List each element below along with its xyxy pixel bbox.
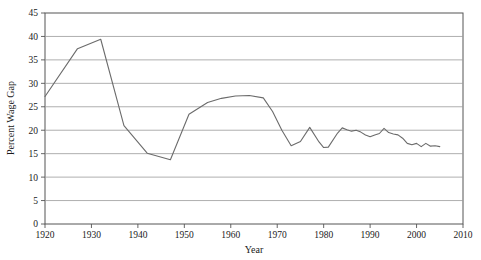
- x-axis-ticks: [45, 224, 463, 228]
- y-tick-label: 20: [29, 126, 39, 136]
- plot-background: [45, 13, 463, 224]
- y-tick-label: 25: [29, 102, 39, 112]
- y-axis-tick-labels: 051015202530354045: [29, 8, 39, 229]
- y-tick-label: 0: [33, 219, 38, 229]
- x-tick-label: 1940: [128, 230, 147, 240]
- x-tick-label: 1950: [175, 230, 194, 240]
- y-tick-label: 5: [33, 196, 38, 206]
- y-axis-ticks: [41, 13, 45, 224]
- y-tick-label: 40: [29, 32, 39, 42]
- x-tick-label: 2000: [407, 230, 426, 240]
- y-axis-title: Percent Wage Gap: [5, 81, 16, 155]
- y-tick-label: 15: [29, 149, 39, 159]
- x-tick-label: 2010: [454, 230, 473, 240]
- y-tick-label: 10: [29, 173, 39, 183]
- y-tick-label: 30: [29, 79, 39, 89]
- x-tick-label: 1920: [36, 230, 55, 240]
- x-axis-title: Year: [245, 244, 264, 255]
- plot-frame: [45, 13, 463, 224]
- x-axis-tick-labels: 1920193019401950196019701980199020002010: [36, 230, 473, 240]
- chart-svg: 051015202530354045 192019301940195019601…: [0, 0, 481, 260]
- x-tick-label: 1970: [268, 230, 287, 240]
- x-tick-label: 1980: [314, 230, 333, 240]
- x-tick-label: 1930: [82, 230, 101, 240]
- wage-gap-line-chart: 051015202530354045 192019301940195019601…: [0, 0, 481, 260]
- x-tick-label: 1990: [361, 230, 380, 240]
- x-tick-label: 1960: [221, 230, 240, 240]
- y-tick-label: 35: [29, 55, 39, 65]
- y-tick-label: 45: [29, 8, 39, 18]
